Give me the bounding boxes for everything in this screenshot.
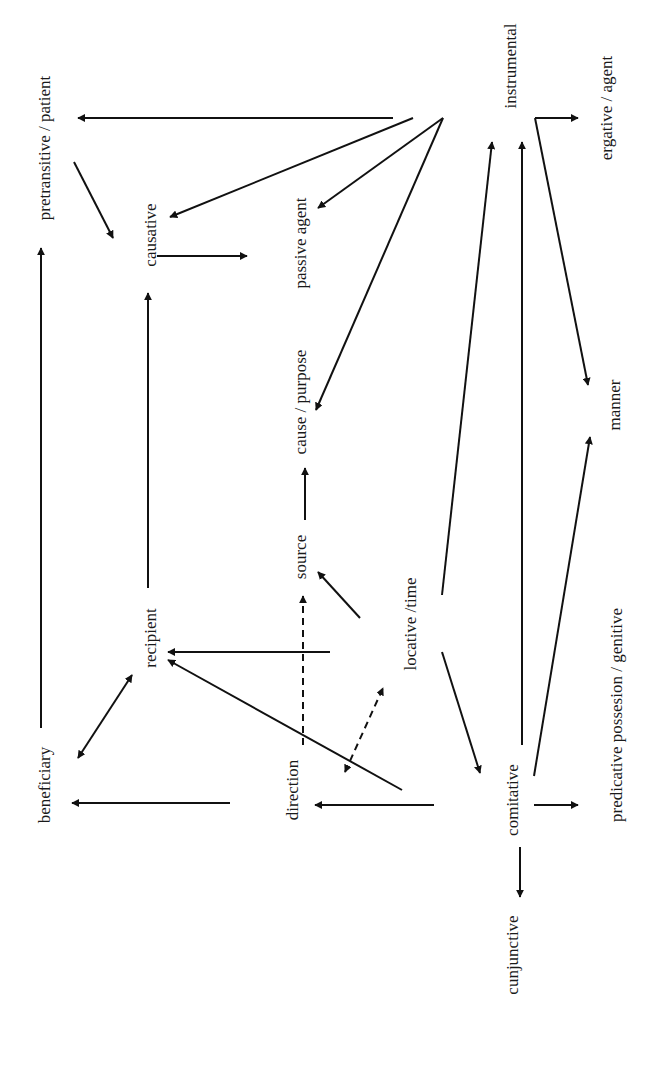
node-manner: manner (605, 379, 624, 430)
node-causative: causative (141, 203, 160, 266)
node-cunjunctive: cunjunctive (503, 915, 522, 994)
edge-instrumental-to-manner (535, 118, 588, 385)
node-locative-time: locative /time (401, 578, 420, 671)
node-predicative-possession-genitive: predicative possesion / genitive (607, 608, 626, 822)
node-cause-purpose: cause / purpose (291, 350, 310, 455)
edge-locative_time-to-comitative (442, 652, 480, 773)
edge-comitative-to-manner (534, 437, 590, 776)
node-beneficiary: beneficiary (35, 746, 54, 823)
node-source: source (291, 535, 310, 579)
semantic-map-diagram: pretransitive / patient causative passiv… (0, 0, 652, 1090)
node-instrumental: instrumental (501, 23, 520, 108)
node-pretransitive-patient: pretransitive / patient (35, 75, 54, 220)
edge-beneficiary-to-recipient (78, 675, 132, 758)
edge-locative_time-to-instrumental (442, 142, 492, 595)
node-passive-agent: passive agent (291, 197, 310, 288)
edge-locative_time-to-source (318, 572, 360, 618)
node-comitative: comitative (503, 764, 522, 836)
node-recipient: recipient (141, 608, 160, 668)
edge-pretransitive-to-causative (74, 162, 113, 238)
node-ergative-agent: ergative / agent (597, 55, 616, 160)
edge-instrumental-to-cause_purpose (316, 118, 443, 410)
node-direction: direction (283, 759, 302, 820)
edge-direction-to-locative_time (345, 688, 383, 772)
node-layer: pretransitive / patient causative passiv… (35, 23, 626, 994)
